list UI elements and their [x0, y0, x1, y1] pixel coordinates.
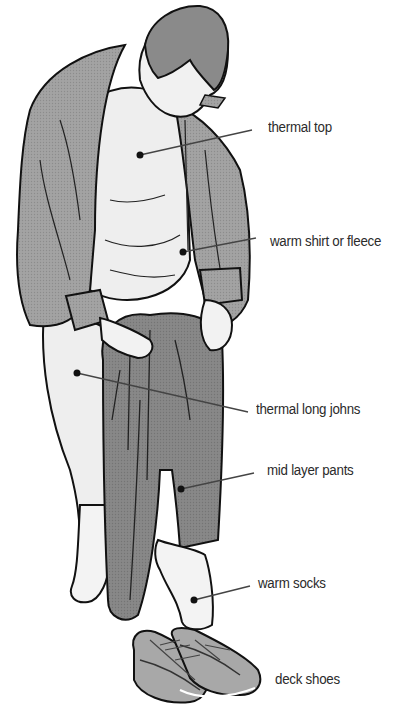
right-sock — [155, 540, 213, 629]
label-thermal-long-johns: thermal long johns — [256, 400, 360, 418]
label-mid-layer-pants: mid layer pants — [267, 461, 354, 479]
deck-shoes — [133, 628, 260, 703]
label-warm-shirt: warm shirt or fleece — [270, 232, 381, 250]
thermal-top — [90, 88, 190, 300]
head — [139, 6, 228, 117]
label-deck-shoes: deck shoes — [275, 670, 340, 688]
dressing-illustration — [0, 0, 420, 709]
label-warm-socks: warm socks — [258, 574, 326, 592]
label-thermal-top: thermal top — [268, 118, 332, 136]
